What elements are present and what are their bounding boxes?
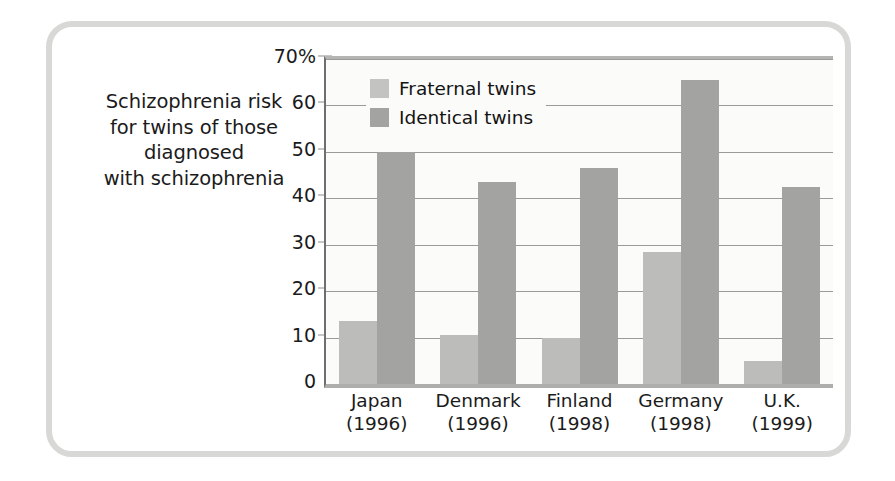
bar-finland-fraternal xyxy=(542,338,580,384)
x-axis-label-germany: Germany(1998) xyxy=(630,389,731,435)
x-axis-label-name-denmark: Denmark xyxy=(427,389,528,412)
bar-uk-identical xyxy=(782,187,820,384)
x-axis-label-name-germany: Germany xyxy=(630,389,731,412)
legend-item-identical: Identical twins xyxy=(370,103,536,132)
x-axis-label-name-uk: U.K. xyxy=(732,389,833,412)
y-tick-label-40: 40 xyxy=(260,184,316,206)
x-axis-label-year-uk: (1999) xyxy=(732,412,833,435)
x-axis: Japan(1996)Denmark(1996)Finland(1998)Ger… xyxy=(326,389,833,445)
x-axis-label-year-denmark: (1996) xyxy=(427,412,528,435)
figure-frame: Schizophrenia risk for twins of those di… xyxy=(46,21,851,457)
y-tick-label-50: 50 xyxy=(260,138,316,160)
x-axis-label-finland: Finland(1998) xyxy=(529,389,630,435)
x-axis-label-name-japan: Japan xyxy=(326,389,427,412)
legend-swatch-fraternal xyxy=(370,79,389,98)
y-tick-label-30: 30 xyxy=(260,231,316,253)
bar-uk-fraternal xyxy=(744,361,782,384)
bar-germany-identical xyxy=(681,80,719,384)
legend-label-identical: Identical twins xyxy=(399,107,533,128)
y-tick-label-0: 0 xyxy=(260,370,316,392)
bar-denmark-identical xyxy=(478,182,516,384)
legend-label-fraternal: Fraternal twins xyxy=(399,78,536,99)
x-axis-label-year-germany: (1998) xyxy=(630,412,731,435)
y-tick-label-10: 10 xyxy=(260,324,316,346)
x-axis-label-japan: Japan(1996) xyxy=(326,389,427,435)
x-axis-label-name-finland: Finland xyxy=(529,389,630,412)
legend-item-fraternal: Fraternal twins xyxy=(370,74,536,103)
y-axis: 70%6050403020100 xyxy=(252,56,316,381)
y-tick-label-60: 60 xyxy=(260,91,316,113)
gridline-70 xyxy=(326,59,833,60)
x-axis-label-denmark: Denmark(1996) xyxy=(427,389,528,435)
bar-japan-identical xyxy=(377,152,415,384)
bar-germany-fraternal xyxy=(643,252,681,384)
x-axis-label-year-japan: (1996) xyxy=(326,412,427,435)
bar-japan-fraternal xyxy=(339,321,377,384)
chart-legend: Fraternal twins Identical twins xyxy=(366,71,546,135)
plot-area: Fraternal twins Identical twins xyxy=(324,56,833,388)
bar-denmark-fraternal xyxy=(440,335,478,384)
y-tick-label-70: 70% xyxy=(260,45,316,67)
legend-swatch-identical xyxy=(370,108,389,127)
x-axis-label-uk: U.K.(1999) xyxy=(732,389,833,435)
bar-finland-identical xyxy=(580,168,618,384)
x-axis-label-year-finland: (1998) xyxy=(529,412,630,435)
y-tick-label-20: 20 xyxy=(260,277,316,299)
